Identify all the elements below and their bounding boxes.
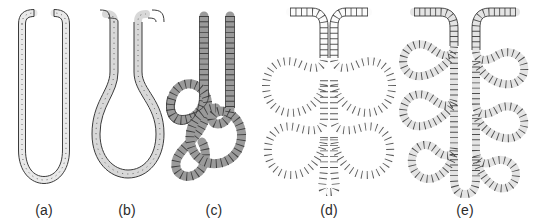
panel-c-illustration [166,0,262,200]
panel-label-b: (b) [88,202,166,218]
panel-a-illustration [0,0,88,200]
tube-segments-a [22,13,66,180]
panel-b: (b) [88,0,166,224]
tube-centreline-a [22,13,66,180]
figure-root: (a) (b) [0,0,534,224]
panel-e-illustration [396,0,534,200]
tube-branches-e [403,12,524,194]
tube-outline-a [22,13,66,180]
tube-centreline-b [96,14,160,174]
tube-branches-d [266,12,392,192]
panel-label-c: (c) [166,202,262,218]
panel-c: (c) [166,0,262,224]
panel-e: (e) [396,0,534,224]
panel-b-illustration [88,0,166,200]
panel-d: (d) [262,0,396,224]
tube-edges-a [19,10,70,184]
panel-a: (a) [0,0,88,224]
panel-label-e: (e) [396,202,534,218]
panel-label-a: (a) [0,202,88,218]
panel-d-illustration [262,0,396,200]
panel-label-d: (d) [262,202,396,218]
